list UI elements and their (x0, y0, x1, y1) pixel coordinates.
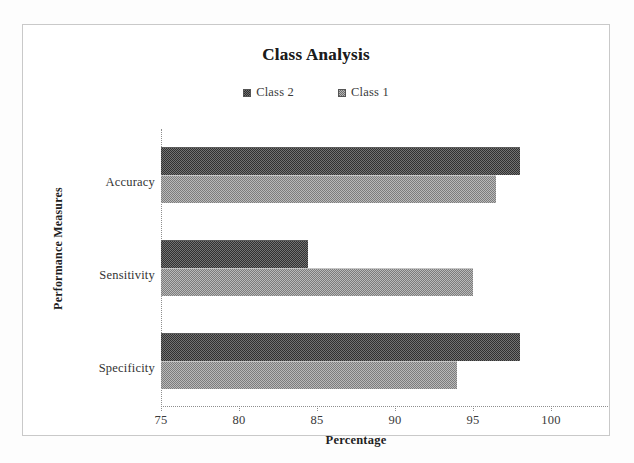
x-tick-label-95: 95 (467, 413, 480, 428)
y-tick-label-specificity: Specificity (69, 361, 155, 376)
bar-sensitivity-class-1[interactable] (161, 268, 473, 296)
y-axis-tick-labels: Accuracy Sensitivity Specificity (67, 129, 155, 407)
bar-accuracy-class-1[interactable] (161, 175, 496, 203)
x-axis-tick-80 (239, 406, 240, 411)
x-axis-tick-labels: 75 80 85 90 95 100 (161, 413, 611, 433)
chart-frame: Class Analysis Class 2 Class 1 Accuracy … (22, 24, 610, 436)
legend-item-class-1[interactable]: Class 1 (338, 85, 389, 100)
chart-title: Class Analysis (23, 45, 609, 65)
x-tick-label-100: 100 (541, 413, 560, 428)
bar-sensitivity-class-2[interactable] (161, 240, 308, 268)
x-tick-label-85: 85 (311, 413, 324, 428)
legend-label-class-1: Class 1 (351, 85, 389, 100)
legend-swatch-light-icon (338, 89, 346, 97)
x-axis-tick-75 (161, 406, 162, 411)
chart-legend: Class 2 Class 1 (23, 85, 609, 100)
bar-specificity-class-2[interactable] (161, 333, 520, 361)
x-axis-tick-85 (317, 406, 318, 411)
bar-accuracy-class-2[interactable] (161, 147, 520, 175)
x-axis-title: Percentage (161, 433, 551, 448)
x-tick-label-80: 80 (233, 413, 246, 428)
y-axis-title: Performance Measures (51, 154, 66, 344)
legend-item-class-2[interactable]: Class 2 (243, 85, 294, 100)
x-axis-tick-95 (473, 406, 474, 411)
x-axis-tick-90 (395, 406, 396, 411)
x-tick-label-90: 90 (389, 413, 402, 428)
plot-area (161, 129, 551, 407)
x-axis-line (161, 406, 608, 407)
bar-specificity-class-1[interactable] (161, 361, 457, 389)
x-tick-label-75: 75 (155, 413, 168, 428)
x-axis-tick-100 (551, 406, 552, 411)
y-tick-label-accuracy: Accuracy (69, 175, 155, 190)
legend-label-class-2: Class 2 (256, 85, 294, 100)
y-tick-label-sensitivity: Sensitivity (69, 268, 155, 283)
legend-swatch-dark-icon (243, 89, 251, 97)
